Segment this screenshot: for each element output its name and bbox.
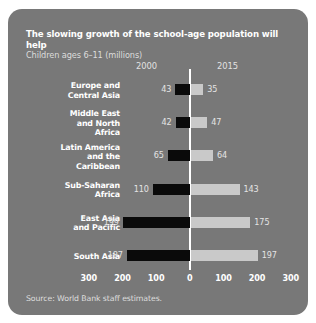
- bar-2015: [191, 217, 250, 228]
- bar-2000: [127, 250, 190, 261]
- x-axis-ticks: 3002001000100200300: [8, 273, 308, 285]
- region-label: Latin Americaand theCaribbean: [12, 143, 120, 172]
- value-label-2015: 64: [217, 150, 247, 161]
- region-label-line: and North: [12, 119, 120, 129]
- chart-panel: The slowing growth of the school-age pop…: [8, 9, 308, 315]
- source-note: Source: World Bank staff estimates.: [26, 294, 162, 303]
- x-tick-label: 200: [108, 273, 138, 283]
- region-label-line: Latin America: [12, 143, 120, 153]
- region-label: Sub-SaharanAfrica: [12, 181, 120, 200]
- bar-2015: [191, 184, 239, 195]
- bar-2015: [191, 84, 203, 95]
- region-label: Middle Eastand NorthAfrica: [12, 109, 120, 138]
- value-label-2000: 42: [142, 117, 172, 128]
- region-label-line: Europe and: [12, 81, 120, 91]
- bar-row: East Asiaand Pacific199175: [8, 216, 308, 249]
- value-label-2015: 197: [262, 250, 292, 261]
- x-tick-label: 100: [208, 273, 238, 283]
- bar-2000: [168, 150, 190, 161]
- value-label-2000: 187: [93, 250, 123, 261]
- value-label-2000: 43: [141, 84, 171, 95]
- region-label-line: Middle East: [12, 109, 120, 119]
- value-label-2000: 65: [134, 150, 164, 161]
- x-tick-label: 300: [74, 273, 104, 283]
- x-tick-label: 100: [141, 273, 171, 283]
- value-label-2000: 110: [119, 184, 149, 195]
- value-label-2015: 143: [244, 184, 274, 195]
- region-label-line: Central Asia: [12, 91, 120, 101]
- region-label-line: and the: [12, 152, 120, 162]
- bar-2015: [191, 150, 213, 161]
- series-label-2015: 2015: [217, 61, 238, 71]
- value-label-2015: 47: [211, 117, 241, 128]
- bar-2015: [191, 250, 257, 261]
- region-label-line: Africa: [12, 190, 120, 200]
- region-label-line: Caribbean: [12, 162, 120, 172]
- value-label-2015: 175: [254, 217, 284, 228]
- x-tick-label: 0: [175, 273, 205, 283]
- plot-area: 2000 2015 Europe andCentral Asia4335Midd…: [8, 9, 308, 315]
- bar-2000: [153, 184, 190, 195]
- x-tick-label: 200: [242, 273, 272, 283]
- series-label-2000: 2000: [136, 61, 157, 71]
- value-label-2015: 35: [207, 84, 237, 95]
- x-tick-label: 300: [276, 273, 306, 283]
- bar-row: Latin Americaand theCaribbean6564: [8, 149, 308, 182]
- bar-row: Sub-SaharanAfrica110143: [8, 183, 308, 216]
- bar-2000: [175, 84, 189, 95]
- bar-2015: [191, 117, 207, 128]
- region-label-line: Sub-Saharan: [12, 181, 120, 191]
- region-label-line: Africa: [12, 128, 120, 138]
- region-label: Europe andCentral Asia: [12, 81, 120, 100]
- bar-2000: [176, 117, 190, 128]
- value-label-2000: 199: [89, 217, 119, 228]
- bar-2000: [123, 217, 190, 228]
